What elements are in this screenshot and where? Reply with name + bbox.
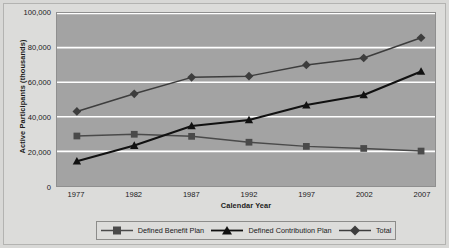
square-data-point [74,133,81,140]
legend-item-defined-benefit-plan[interactable]: Defined Benefit Plan [101,225,205,236]
square-data-point [131,131,138,138]
x-tick-label: 1982 [111,190,157,199]
x-axis-title: Calendar Year [56,201,436,210]
series-total [73,33,426,115]
chart-figure: Active Participants (thousands) 100,000 … [0,0,449,248]
square-data-point [303,143,310,150]
x-tick-label: 2007 [399,190,445,199]
legend-label: Defined Contribution Plan [246,226,331,235]
plot-area [56,12,436,187]
x-tick-label: 1987 [168,190,214,199]
x-tick-label: 1977 [53,190,99,199]
diamond-marker-icon [339,225,371,236]
legend-label: Total [374,226,391,235]
square-data-point [360,145,367,152]
diamond-data-point [73,107,82,116]
triangle-data-point [417,67,425,75]
square-data-point [246,139,253,146]
legend-item-defined-contribution-plan[interactable]: Defined Contribution Plan [211,225,331,236]
diamond-data-point [187,73,196,82]
triangle-marker-icon [211,225,243,236]
gridlines [57,13,435,151]
square-data-point [188,133,195,140]
square-data-point [418,148,425,155]
diamond-data-point [245,72,254,81]
x-tick-label: 2002 [341,190,387,199]
square-marker-icon [101,225,133,236]
plot-svg [57,13,435,186]
diamond-data-point [130,89,139,98]
x-tick-label: 1997 [284,190,330,199]
data-series-layer [73,33,426,164]
diamond-data-point [302,61,311,70]
legend-label: Defined Benefit Plan [136,226,205,235]
x-tick-label: 1992 [226,190,272,199]
chart-legend: Defined Benefit Plan Defined Contributio… [96,221,396,240]
diamond-data-point [417,33,426,42]
diamond-data-point [359,54,368,63]
legend-item-total[interactable]: Total [339,225,391,236]
y-axis-title: Active Participants (thousands) [18,17,27,177]
